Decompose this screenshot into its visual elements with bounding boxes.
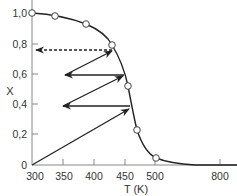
marker-point — [134, 127, 141, 134]
y-tick-0-8: 0,8 — [12, 38, 27, 50]
chart-canvas: 1,0 0,8 0,6 0,4 0,2 0 X 300 350 400 450 … — [0, 0, 237, 196]
conversion-temperature-chart: 1,0 0,8 0,6 0,4 0,2 0 X 300 350 400 450 … — [0, 0, 237, 196]
marker-point — [83, 21, 90, 28]
staging-arrows — [32, 50, 130, 165]
y-tick-0-6: 0,6 — [12, 68, 27, 80]
x-tick-800: 800 — [211, 170, 229, 182]
conversion-curve — [32, 13, 237, 165]
y-axis-label: X — [6, 85, 14, 97]
marker-point — [29, 10, 36, 17]
arrow-stage-1 — [32, 109, 129, 165]
x-axis-label: T (K) — [124, 183, 148, 195]
marker-point — [153, 155, 160, 162]
arrow-stage-2 — [63, 76, 123, 106]
y-tick-0-2: 0,2 — [12, 128, 27, 140]
marker-point — [52, 13, 59, 20]
x-tick-350: 350 — [55, 170, 73, 182]
y-tick-1-0: 1,0 — [12, 7, 27, 19]
y-tick-0-4: 0,4 — [12, 98, 27, 110]
y-axis — [32, 0, 38, 165]
x-tick-400: 400 — [85, 170, 103, 182]
marker-point — [125, 83, 132, 90]
x-tick-500: 500 — [146, 170, 164, 182]
x-tick-300: 300 — [26, 170, 44, 182]
x-axis — [32, 159, 237, 165]
x-tick-450: 450 — [116, 170, 134, 182]
marker-point — [109, 42, 116, 49]
arrow-stage-3 — [65, 51, 112, 75]
